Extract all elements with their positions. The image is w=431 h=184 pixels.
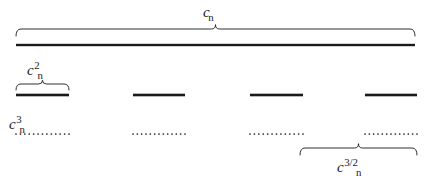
top-brace-cn xyxy=(16,25,415,36)
dot xyxy=(394,133,396,135)
dot xyxy=(373,133,375,135)
dotted-segment-2 xyxy=(132,133,186,135)
dot xyxy=(28,133,30,135)
dot xyxy=(55,133,57,135)
dot xyxy=(33,133,35,135)
dot xyxy=(68,133,70,135)
second-brace-cn-squared xyxy=(16,80,69,90)
dot xyxy=(145,133,147,135)
label-cn-cubed: c3n xyxy=(9,114,26,135)
dot xyxy=(171,133,173,135)
dot xyxy=(298,133,300,135)
dot xyxy=(280,133,282,135)
dot xyxy=(271,133,273,135)
dot xyxy=(167,133,169,135)
dotted-segment-4 xyxy=(364,133,418,135)
solid-segment-3 xyxy=(250,94,303,97)
dot xyxy=(180,133,182,135)
top-solid-bar xyxy=(16,44,415,46)
dot xyxy=(64,133,66,135)
dot xyxy=(162,133,164,135)
dot xyxy=(302,133,304,135)
dot xyxy=(368,133,370,135)
dot xyxy=(276,133,278,135)
dot xyxy=(42,133,44,135)
dot xyxy=(175,133,177,135)
dot xyxy=(381,133,383,135)
dot xyxy=(377,133,379,135)
dot xyxy=(364,133,366,135)
dot xyxy=(158,133,160,135)
solid-segment-2 xyxy=(133,94,185,97)
solid-segment-1 xyxy=(16,94,69,97)
dot xyxy=(59,133,61,135)
dot xyxy=(141,133,143,135)
dot xyxy=(136,133,138,135)
dot xyxy=(412,133,414,135)
label-cn-squared: c2n xyxy=(27,60,44,81)
dot xyxy=(399,133,401,135)
dot xyxy=(50,133,52,135)
dot xyxy=(416,133,418,135)
solid-segment-4 xyxy=(365,94,417,97)
bottom-brace-cn-three-halves xyxy=(300,144,417,155)
dot xyxy=(132,133,134,135)
dot xyxy=(262,133,264,135)
dotted-segment-3 xyxy=(249,133,304,135)
dot xyxy=(249,133,251,135)
label-cn: cn xyxy=(203,5,215,23)
dot xyxy=(184,133,186,135)
dot xyxy=(289,133,291,135)
dot xyxy=(149,133,151,135)
label-cn-three-halves: c3/2n xyxy=(337,157,363,178)
dot xyxy=(403,133,405,135)
dot xyxy=(407,133,409,135)
figure-canvas xyxy=(0,0,431,184)
dot xyxy=(46,133,48,135)
dot xyxy=(267,133,269,135)
dot xyxy=(258,133,260,135)
dot xyxy=(390,133,392,135)
dot xyxy=(154,133,156,135)
scale-decomposition-figure: cn c2n c3n c3/2n xyxy=(0,0,431,184)
dot xyxy=(37,133,39,135)
dot xyxy=(293,133,295,135)
dot xyxy=(254,133,256,135)
dot xyxy=(386,133,388,135)
dot xyxy=(284,133,286,135)
